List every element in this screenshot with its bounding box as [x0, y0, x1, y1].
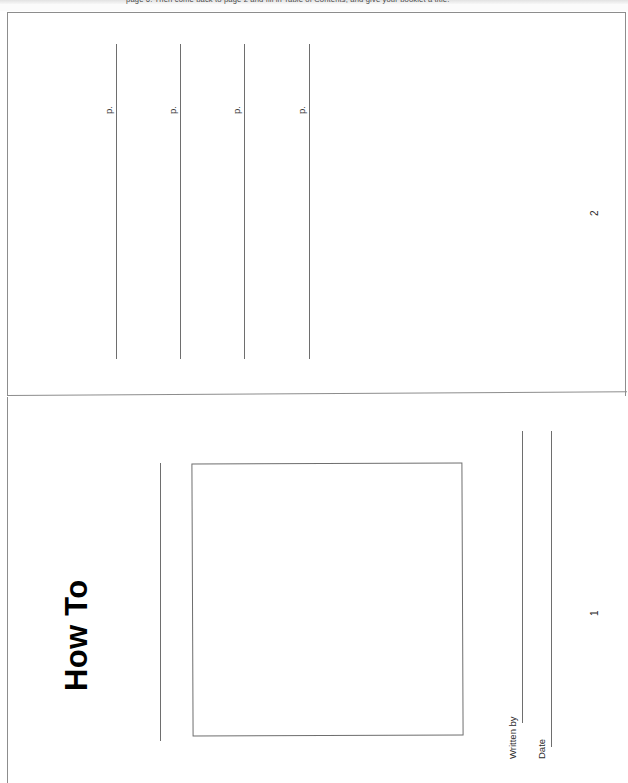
written-by-line[interactable]	[522, 431, 523, 723]
toc-entry-page-label: p.	[167, 105, 178, 115]
instruction-text: page 6. Then come back to page 2 and fil…	[126, 0, 596, 5]
worksheet-page: page 6. Then come back to page 2 and fil…	[0, 0, 628, 783]
toc-entry-line[interactable]	[309, 44, 310, 359]
page-number-2: 2	[589, 210, 600, 216]
date-label: Date	[536, 739, 547, 759]
illustration-box[interactable]	[191, 462, 463, 736]
toc-entry-line[interactable]	[116, 44, 117, 359]
page-title-how-to: How To	[59, 580, 95, 691]
toc-entry-line[interactable]	[244, 44, 245, 359]
table-of-contents-panel: Table of Contents p. p. p. p.	[7, 12, 626, 396]
page-title-table-of-contents: Table of Contents	[0, 265, 66, 396]
written-by-label: Written by	[507, 716, 518, 759]
date-line[interactable]	[551, 431, 552, 747]
toc-entry-page-label: p.	[296, 105, 307, 115]
title-underline-rule	[160, 463, 161, 741]
toc-entry-page-label: p.	[231, 105, 242, 115]
toc-entry-line[interactable]	[180, 44, 181, 359]
page-number-1: 1	[589, 610, 600, 616]
instruction-strip: page 6. Then come back to page 2 and fil…	[0, 0, 628, 11]
toc-entry-page-label: p.	[103, 105, 114, 115]
